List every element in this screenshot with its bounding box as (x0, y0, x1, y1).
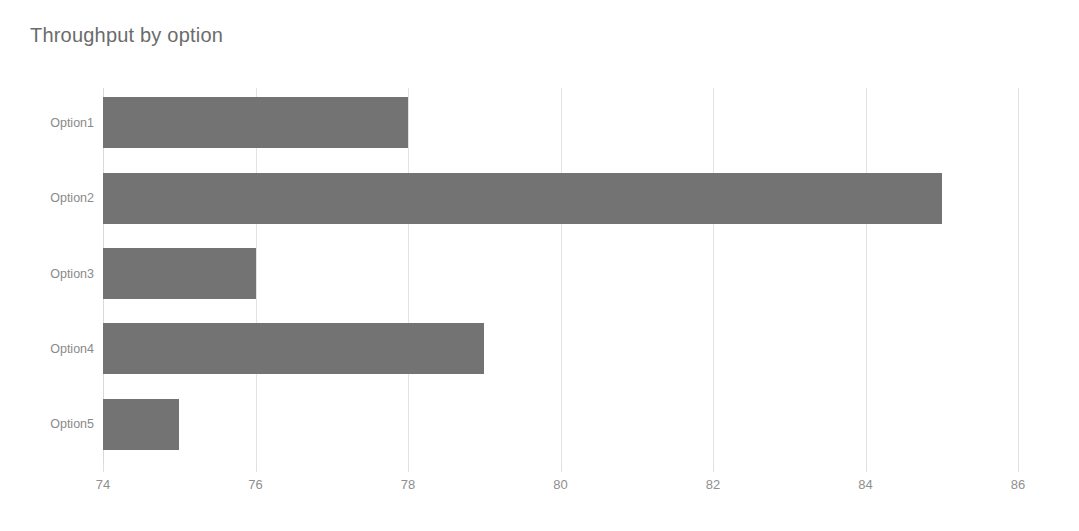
category-label: Option1 (8, 117, 94, 130)
gridline-86 (1018, 88, 1019, 465)
x-axis-tick-label: 80 (553, 477, 567, 492)
bar (103, 248, 256, 299)
category-label: Option3 (8, 268, 94, 281)
tick-mark-86 (1018, 465, 1019, 472)
chart-title: Throughput by option (30, 24, 223, 47)
tick-mark-80 (561, 465, 562, 472)
gridline-84 (866, 88, 867, 465)
tick-mark-78 (408, 465, 409, 472)
tick-mark-76 (256, 465, 257, 472)
gridline-80 (561, 88, 562, 465)
bar-chart: Throughput by option Option1Option2Optio… (0, 0, 1079, 531)
x-axis-tick-label: 74 (96, 477, 110, 492)
bar (103, 173, 942, 224)
bar (103, 323, 484, 374)
gridline-78 (408, 88, 409, 465)
x-axis-tick-label: 76 (248, 477, 262, 492)
x-axis-tick-label: 84 (858, 477, 872, 492)
x-axis-tick-label: 82 (706, 477, 720, 492)
x-axis-tick-label: 86 (1011, 477, 1025, 492)
tick-mark-84 (866, 465, 867, 472)
bar (103, 399, 179, 450)
gridline-82 (713, 88, 714, 465)
category-label: Option4 (8, 343, 94, 356)
bar (103, 97, 408, 148)
category-label: Option5 (8, 418, 94, 431)
tick-mark-82 (713, 465, 714, 472)
plot-area: Option1Option2Option3Option4Option5 7476… (103, 88, 1018, 465)
x-axis-tick-label: 78 (401, 477, 415, 492)
tick-mark-74 (103, 465, 104, 472)
category-label: Option2 (8, 192, 94, 205)
